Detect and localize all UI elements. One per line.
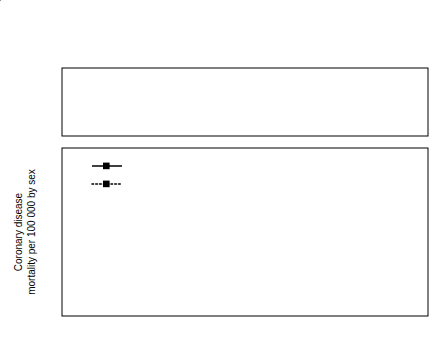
bottom-panel-frame [62,148,428,316]
top-panel-frame [62,68,428,136]
legend [92,163,122,188]
figure-container: Coronary disease mortality per 100 000 b… [0,0,436,353]
bottom-y-axis-label-line2: mortality per 100 000 by sex [26,169,37,295]
legend-male-marker [103,163,110,170]
mortality-by-sex-panel: Coronary disease mortality per 100 000 b… [0,0,428,316]
bottom-y-axis-label-line1: Coronary disease [13,192,24,271]
legend-female-marker [103,181,110,188]
male-female-ratio-panel [0,0,428,136]
coronary-mortality-figure: Coronary disease mortality per 100 000 b… [0,0,436,353]
